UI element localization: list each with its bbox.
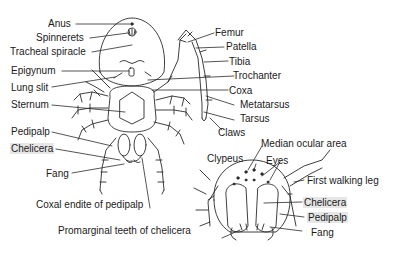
label-head-chelicera: Chelicera: [303, 197, 347, 208]
label-femur: Femur: [215, 27, 244, 38]
label-coxal-endite: Coxal endite of pedipalp: [36, 199, 143, 210]
label-claws: Claws: [218, 127, 245, 138]
label-clypeus: Clypeus: [207, 153, 243, 164]
label-chelicera: Chelicera: [10, 143, 54, 154]
label-epigynum: Epigynum: [11, 65, 55, 76]
spider-anatomy-diagram: Anus Spinnerets Tracheal spiracle Epigyn…: [0, 0, 395, 254]
label-trochanter: Trochanter: [233, 70, 281, 81]
label-median-ocular-area: Median ocular area: [261, 138, 347, 149]
label-head-fang: Fang: [311, 227, 334, 238]
label-head-pedipalp: Pedipalp: [307, 212, 348, 223]
label-fang: Fang: [46, 168, 69, 179]
label-lung-slit: Lung slit: [11, 82, 48, 93]
ventral-spider: [72, 18, 212, 194]
label-coxa: Coxa: [229, 85, 252, 96]
label-sternum: Sternum: [11, 99, 49, 110]
label-spinnerets: Spinnerets: [36, 32, 84, 43]
label-anus: Anus: [48, 18, 71, 29]
label-first-walking-leg: First walking leg: [307, 175, 379, 186]
label-patella: Patella: [226, 41, 257, 52]
label-tibia: Tibia: [229, 56, 250, 67]
label-pedipalp: Pedipalp: [11, 126, 50, 137]
label-promarginal-teeth: Promarginal teeth of chelicera: [58, 225, 191, 236]
label-tracheal-spiracle: Tracheal spiracle: [10, 46, 86, 57]
label-eyes: Eyes: [266, 155, 288, 166]
label-metatarsus: Metatarsus: [240, 99, 289, 110]
label-tarsus: Tarsus: [240, 113, 269, 124]
